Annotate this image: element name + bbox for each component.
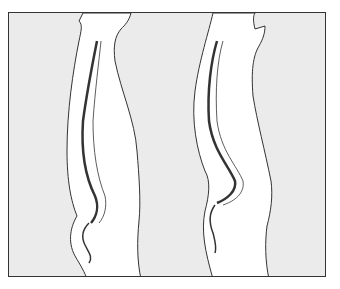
right-torso-silhouette <box>194 13 272 277</box>
left-torso-silhouette <box>67 13 141 277</box>
spine-illustration <box>9 13 326 277</box>
illustration-frame <box>8 12 326 277</box>
